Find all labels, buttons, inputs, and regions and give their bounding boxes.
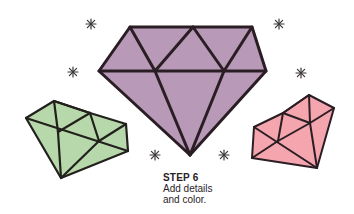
sparkle-icon [219, 150, 229, 160]
step-caption: STEP 6 Add details and color. [163, 172, 212, 205]
pink-diamond-icon [252, 95, 334, 168]
sparkle-icon [274, 19, 284, 29]
sparkle-icon [296, 68, 306, 78]
sparkle-icon [150, 150, 160, 160]
drawing-step-illustration: STEP 6 Add details and color. [0, 0, 354, 214]
sparkle-icon [68, 67, 78, 77]
step-label: STEP 6 [163, 172, 212, 183]
step-instruction-line-2: and color. [163, 194, 212, 205]
step-instruction-line-1: Add details [163, 183, 212, 194]
green-diamond-icon [26, 101, 128, 178]
sparkle-icon [86, 19, 96, 29]
